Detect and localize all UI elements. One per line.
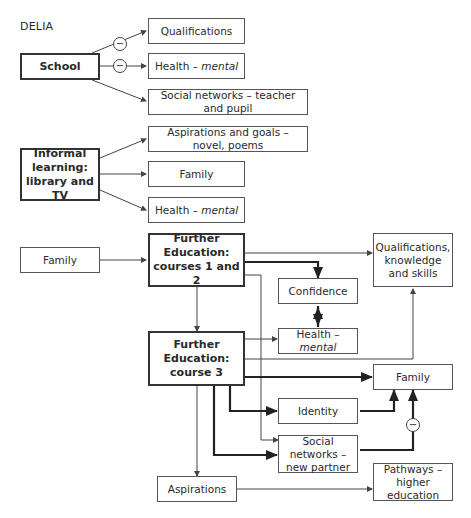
node-aspirations-goals: Aspirations and goals – novel, poems <box>148 126 308 152</box>
negative-effect-icon: − <box>113 59 127 73</box>
node-social-networks-teacher: Social networks – teacher and pupil <box>148 89 308 115</box>
node-health-mental: Health – mental <box>148 53 245 79</box>
negative-effect-icon: − <box>113 37 127 51</box>
node-aspirations: Aspirations <box>157 476 237 502</box>
node-family: Family <box>148 161 245 187</box>
node-further-education-1-2: Further Education: courses 1 and 2 <box>148 233 245 287</box>
node-social-networks-partner: Social networks – new partner <box>278 435 358 473</box>
node-family-input: Family <box>20 247 100 273</box>
node-informal-learning: Informal learning: library and TV <box>20 148 100 201</box>
node-school: School <box>20 53 100 80</box>
node-pathways-higher-education: Pathways – higher education <box>373 463 453 501</box>
node-family-outcome: Family <box>373 364 453 390</box>
node-health-mental: Health – mental <box>278 328 358 354</box>
node-qualifications-knowledge-skills: Qualifications, knowledge and skills <box>373 233 453 287</box>
node-health-mental: Health – mental <box>148 197 245 223</box>
negative-effect-icon: − <box>406 418 420 432</box>
node-confidence: Confidence <box>278 278 358 304</box>
node-qualifications: Qualifications <box>148 18 245 44</box>
node-further-education-3: Further Education: course 3 <box>148 331 245 386</box>
node-identity: Identity <box>278 398 358 424</box>
